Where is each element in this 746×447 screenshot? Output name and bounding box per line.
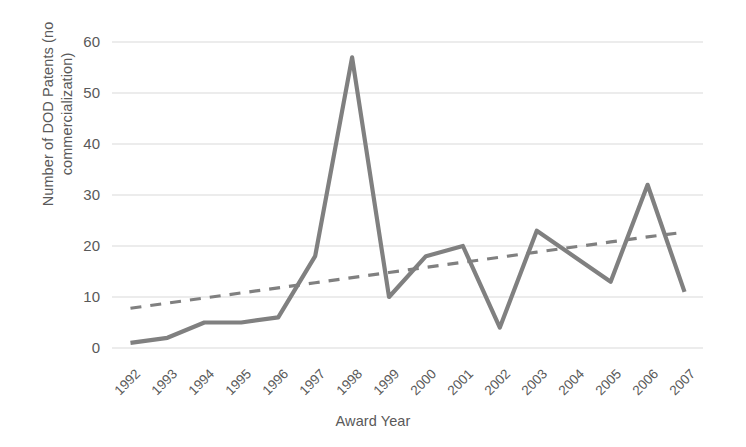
y-tick-label: 20: [60, 238, 100, 253]
y-tick-label: 10: [60, 289, 100, 304]
y-tick-label: 60: [60, 34, 100, 49]
y-tick-label: 0: [60, 340, 100, 355]
x-axis-title: Award Year: [0, 413, 746, 429]
y-tick-label: 50: [60, 85, 100, 100]
series-lines: [130, 57, 684, 343]
y-tick-label: 40: [60, 136, 100, 151]
gridlines: [112, 42, 703, 348]
y-tick-label: 30: [60, 187, 100, 202]
plot-area: [0, 0, 746, 447]
data-line: [130, 57, 684, 343]
chart-container: Number of DOD Patents (no commercializat…: [0, 0, 746, 447]
